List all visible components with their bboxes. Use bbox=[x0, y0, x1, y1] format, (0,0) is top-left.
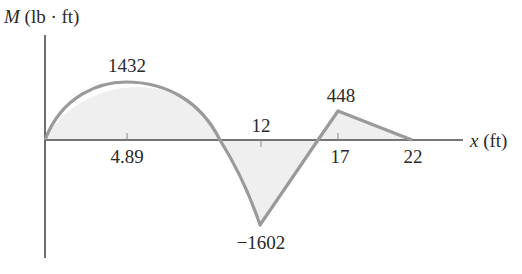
y-axis-unit: (lb · ft) bbox=[20, 6, 80, 28]
y-axis-var: M bbox=[3, 6, 21, 27]
positive-area-fill bbox=[45, 87, 220, 140]
max-moment-label: 1432 bbox=[108, 55, 146, 76]
min-moment-label: −1602 bbox=[237, 232, 286, 253]
tick-label-22: 22 bbox=[404, 146, 423, 167]
tick-label-17: 17 bbox=[331, 146, 350, 167]
x-axis-unit: (ft) bbox=[478, 130, 507, 152]
bending-moment-diagram: M (lb · ft) x (ft) 1432 −1602 448 4.89 1… bbox=[0, 0, 522, 274]
y-axis-label: M (lb · ft) bbox=[3, 6, 79, 28]
x-axis-label: x (ft) bbox=[469, 130, 507, 152]
tick-label-12: 12 bbox=[252, 115, 271, 136]
tick-label-4.89: 4.89 bbox=[110, 146, 143, 167]
local-max-label: 448 bbox=[327, 85, 356, 106]
